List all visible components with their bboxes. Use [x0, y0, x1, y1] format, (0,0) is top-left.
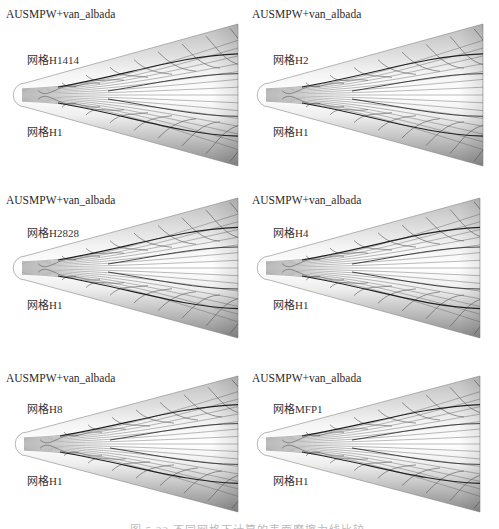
figure-panel: AUSMPW+van_albada 网格H1414 网格H1: [0, 0, 249, 172]
reference-grid-label: 网格H1: [273, 296, 308, 312]
reference-grid-label: 网格H1: [27, 123, 62, 139]
figure-panel: AUSMPW+van_albada 网格MFP1 网格H1: [247, 344, 496, 516]
figure-panel: AUSMPW+van_albada 网格H4 网格H1: [247, 172, 496, 344]
cone-surface-streamline-plot: [247, 344, 496, 516]
numerical-scheme-label: AUSMPW+van_albada: [6, 194, 115, 206]
cone-surface-streamline-plot: [247, 0, 496, 172]
reference-grid-label: 网格H1: [273, 123, 308, 139]
compared-grid-label: 网格H2: [273, 51, 308, 67]
numerical-scheme-label: AUSMPW+van_albada: [6, 372, 115, 384]
compared-grid-label: 网格MFP1: [273, 400, 323, 416]
compared-grid-label: 网格H2828: [27, 224, 79, 240]
numerical-scheme-label: AUSMPW+van_albada: [252, 194, 361, 206]
figure-panel: AUSMPW+van_albada 网格H2 网格H1: [247, 0, 496, 172]
numerical-scheme-label: AUSMPW+van_albada: [252, 372, 361, 384]
compared-grid-label: 网格H1414: [27, 51, 79, 67]
figure-panel: AUSMPW+van_albada 网格H2828 网格H1: [0, 172, 249, 344]
compared-grid-label: 网格H4: [273, 224, 308, 240]
cone-surface-streamline-plot: [0, 0, 249, 172]
figure-caption: 图 5.22 不同网格下计算的表面摩擦力线比较: [130, 521, 375, 529]
numerical-scheme-label: AUSMPW+van_albada: [6, 8, 115, 20]
reference-grid-label: 网格H1: [273, 472, 308, 488]
cone-surface-streamline-plot: [0, 344, 249, 516]
compared-grid-label: 网格H8: [27, 400, 62, 416]
reference-grid-label: 网格H1: [27, 296, 62, 312]
reference-grid-label: 网格H1: [27, 472, 62, 488]
figure-panel: AUSMPW+van_albada 网格H8 网格H1: [0, 344, 249, 516]
numerical-scheme-label: AUSMPW+van_albada: [252, 8, 361, 20]
